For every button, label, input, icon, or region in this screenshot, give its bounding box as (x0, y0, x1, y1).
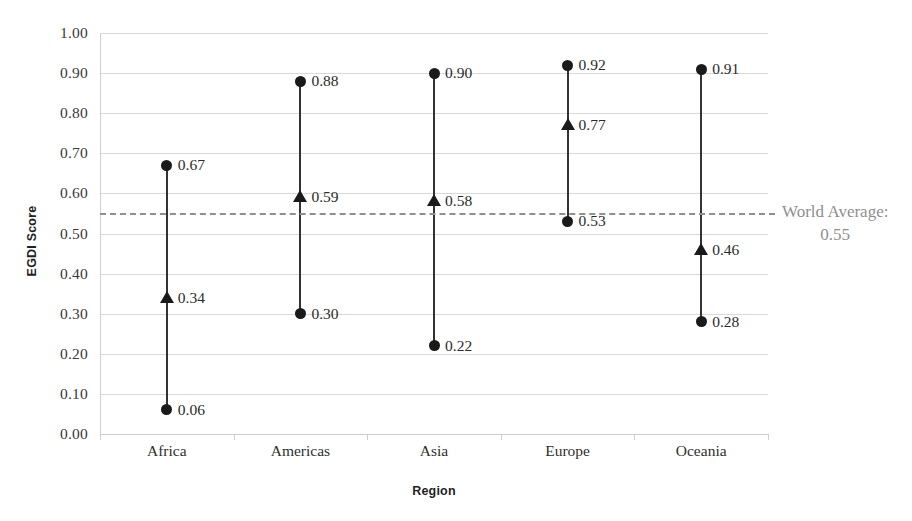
average-point-marker (561, 118, 575, 130)
world-average-reference-line (100, 213, 775, 215)
average-point-label: 0.34 (178, 289, 205, 307)
range-connector (567, 65, 569, 221)
world-average-label: World Average: (782, 202, 888, 221)
max-point-marker (696, 64, 707, 75)
x-tick (501, 434, 502, 440)
y-tick-label: 0.70 (32, 144, 88, 162)
y-tick-label: 0.30 (32, 305, 88, 323)
range-connector (166, 165, 168, 410)
gridline (100, 33, 768, 34)
average-point-marker (694, 243, 708, 255)
y-tick-label: 1.00 (32, 24, 88, 42)
min-point-marker (295, 308, 306, 319)
range-connector (433, 73, 435, 346)
y-axis-tick-labels: 1.000.900.800.700.600.500.400.300.200.10… (24, 0, 88, 521)
y-tick-label: 0.60 (32, 184, 88, 202)
max-point-label: 0.90 (445, 64, 472, 82)
x-tick (634, 434, 635, 440)
x-tick (234, 434, 235, 440)
average-point-marker (427, 194, 441, 206)
average-point-label: 0.46 (712, 241, 739, 259)
min-point-label: 0.22 (445, 337, 472, 355)
y-tick-label: 0.80 (32, 104, 88, 122)
x-category-label: Americas (230, 442, 370, 460)
x-axis-title: Region (100, 484, 768, 498)
min-point-marker (562, 216, 573, 227)
average-point-label: 0.58 (445, 192, 472, 210)
y-axis-line (100, 33, 101, 435)
gridline (100, 354, 768, 355)
x-category-label: Oceania (631, 442, 771, 460)
range-connector (700, 69, 702, 322)
world-average-annotation: World Average: 0.55 (782, 201, 888, 247)
x-tick (100, 434, 101, 440)
min-point-label: 0.06 (178, 401, 205, 419)
max-point-label: 0.88 (311, 72, 338, 90)
min-point-marker (696, 316, 707, 327)
x-category-label: Asia (364, 442, 504, 460)
average-point-label: 0.59 (311, 188, 338, 206)
max-point-marker (562, 60, 573, 71)
world-average-value: 0.55 (782, 224, 888, 247)
x-category-label: Africa (97, 442, 237, 460)
y-tick-label: 0.00 (32, 425, 88, 443)
average-point-label: 0.77 (579, 116, 606, 134)
average-point-marker (160, 291, 174, 303)
y-tick-label: 0.50 (32, 225, 88, 243)
x-axis-line (100, 434, 768, 435)
y-tick-label: 0.10 (32, 385, 88, 403)
max-point-label: 0.67 (178, 156, 205, 174)
y-tick-label: 0.20 (32, 345, 88, 363)
x-tick (367, 434, 368, 440)
x-tick (768, 434, 769, 440)
max-point-label: 0.91 (712, 60, 739, 78)
max-point-marker (295, 76, 306, 87)
max-point-label: 0.92 (579, 56, 606, 74)
min-point-label: 0.28 (712, 313, 739, 331)
x-category-label: Europe (498, 442, 638, 460)
gridline (100, 394, 768, 395)
y-tick-label: 0.90 (32, 64, 88, 82)
min-point-label: 0.30 (311, 305, 338, 323)
y-tick-label: 0.40 (32, 265, 88, 283)
max-point-marker (429, 68, 440, 79)
min-point-marker (429, 340, 440, 351)
average-point-marker (293, 190, 307, 202)
egdi-score-range-chart: EGDI Score 1.000.900.800.700.600.500.400… (0, 0, 912, 521)
